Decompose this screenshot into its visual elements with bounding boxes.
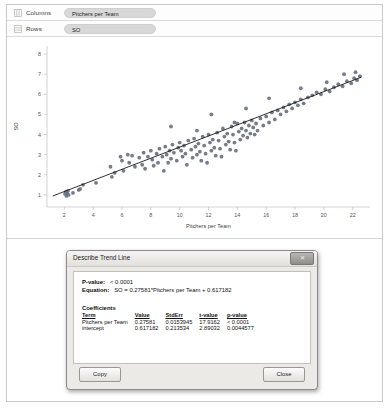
svg-text:7: 7 — [38, 71, 41, 77]
close-button[interactable]: Close — [263, 367, 305, 382]
svg-text:16: 16 — [263, 212, 269, 218]
svg-text:4: 4 — [38, 132, 41, 138]
describe-trend-line-dialog[interactable]: Describe Trend Line ✕ P-value:< 0.0001 E… — [66, 250, 318, 390]
svg-text:2: 2 — [63, 212, 66, 218]
svg-text:2: 2 — [38, 172, 41, 178]
p-value-value: < 0.0001 — [110, 279, 133, 285]
col-stderr: StdErr — [165, 312, 199, 319]
rows-shelf[interactable]: Rows SO — [7, 21, 382, 37]
svg-text:8: 8 — [38, 51, 41, 57]
columns-shelf-label: Columns — [26, 9, 64, 16]
col-value: Value — [135, 312, 166, 319]
copy-button[interactable]: Copy — [79, 367, 121, 382]
p-value-label: P-value: — [82, 279, 105, 285]
col-t-value: t-value — [199, 312, 227, 319]
dialog-content: P-value:< 0.0001 Equation:SO = 0.27581*P… — [73, 271, 311, 364]
dialog-title: Describe Trend Line — [73, 254, 130, 261]
svg-text:8: 8 — [149, 212, 152, 218]
coefficients-table: Term Value StdErr t-value p-value Pitche… — [82, 312, 261, 331]
svg-text:22: 22 — [350, 212, 356, 218]
coefficients-heading: Coefficients — [82, 305, 302, 311]
svg-text:18: 18 — [292, 212, 298, 218]
col-p-value: p-value — [227, 312, 261, 319]
table-row: intercept 0.617182 0.213534 2.89032 0.00… — [82, 325, 261, 331]
columns-shelf[interactable]: Columns Pitchers per Team — [7, 5, 382, 21]
svg-text:5: 5 — [38, 111, 41, 117]
svg-text:SO: SO — [13, 122, 19, 131]
cell-value: 0.617182 — [135, 325, 166, 331]
columns-grid-icon — [14, 9, 22, 17]
cell-stderr: 0.213534 — [165, 325, 199, 331]
svg-text:3: 3 — [38, 152, 41, 158]
equation-label: Equation: — [82, 287, 109, 293]
svg-text:1: 1 — [38, 192, 41, 198]
scatter-chart: 12345678246810121416182022Pitchers per T… — [7, 38, 382, 237]
svg-text:14: 14 — [234, 212, 240, 218]
svg-text:Pitchers per Team: Pitchers per Team — [186, 223, 231, 229]
equation-value: SO = 0.27581*Pitchers per Team + 0.61718… — [114, 287, 231, 293]
window-close-icon[interactable]: ✕ — [290, 252, 314, 265]
svg-text:20: 20 — [321, 212, 327, 218]
pill-pitchers-per-team[interactable]: Pitchers per Team — [64, 8, 156, 18]
equation-line: Equation:SO = 0.27581*Pitchers per Team … — [82, 287, 302, 293]
cell-term: intercept — [82, 325, 135, 331]
scatter-plot-view[interactable]: 12345678246810121416182022Pitchers per T… — [7, 38, 382, 239]
col-term: Term — [82, 312, 135, 319]
svg-text:6: 6 — [38, 91, 41, 97]
svg-text:6: 6 — [120, 212, 123, 218]
table-header-row: Term Value StdErr t-value p-value — [82, 312, 261, 319]
rows-shelf-label: Rows — [26, 25, 64, 32]
svg-text:12: 12 — [206, 212, 212, 218]
svg-text:4: 4 — [92, 212, 95, 218]
cell-t-value: 2.89032 — [199, 325, 227, 331]
pill-so[interactable]: SO — [64, 24, 156, 34]
cell-p-value: 0.0044577 — [227, 325, 261, 331]
rows-grid-icon — [14, 25, 22, 33]
dialog-titlebar[interactable]: Describe Trend Line ✕ — [67, 251, 317, 267]
screenshot-root: Columns Pitchers per Team Rows SO 123456… — [0, 0, 389, 410]
svg-text:10: 10 — [177, 212, 183, 218]
p-value-line: P-value:< 0.0001 — [82, 279, 302, 285]
